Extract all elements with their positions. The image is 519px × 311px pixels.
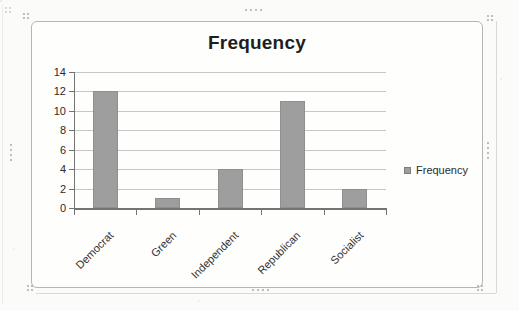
category-label: Socialist [293, 229, 365, 301]
scan-edge-line-left [2, 4, 3, 304]
x-axis-tick [261, 208, 262, 215]
gridline [74, 130, 386, 131]
y-axis-label: 12 [32, 84, 66, 98]
legend-swatch-icon [404, 167, 411, 174]
bar-democrat[interactable] [93, 91, 118, 208]
chart-object[interactable]: Frequency 02468101214DemocratGreenIndepe… [31, 21, 483, 288]
legend-label: Frequency [416, 164, 468, 176]
scan-noise-speckles [0, 0, 2, 2]
bar-green[interactable] [155, 198, 180, 208]
gridline [74, 91, 386, 92]
x-axis-tick [74, 208, 75, 215]
selection-handle-bottom-center[interactable] [252, 289, 269, 291]
y-axis-label: 2 [32, 182, 66, 196]
gridline [74, 111, 386, 112]
selection-handle-bottom-right[interactable] [477, 285, 483, 291]
y-axis-label: 8 [32, 123, 66, 137]
x-axis-tick [386, 208, 387, 215]
selection-handle-bottom-left[interactable] [27, 285, 33, 291]
x-axis-line [74, 208, 386, 210]
y-axis-label: 6 [32, 143, 66, 157]
bar-independent[interactable] [218, 169, 243, 208]
scan-edge-line-bottom [36, 293, 496, 294]
selection-handle-left-middle[interactable] [10, 144, 12, 161]
y-axis-label: 4 [32, 162, 66, 176]
x-axis-tick [136, 208, 137, 215]
category-label: Independent [168, 229, 240, 301]
y-axis-label: 0 [32, 201, 66, 215]
selection-handle-right-middle[interactable] [487, 142, 489, 159]
category-label: Green [106, 229, 178, 301]
selection-handle-top-right[interactable] [487, 15, 493, 21]
x-axis-tick [199, 208, 200, 215]
gridline [74, 150, 386, 151]
bar-republican[interactable] [280, 101, 305, 208]
y-axis-label: 14 [32, 65, 66, 79]
scan-edge-line-right [496, 21, 497, 293]
plot-area[interactable]: 02468101214DemocratGreenIndependentRepub… [32, 22, 482, 287]
category-label: Democrat [44, 229, 116, 301]
gridline [74, 72, 386, 73]
x-axis-tick [324, 208, 325, 215]
selection-handle-top-left[interactable] [23, 13, 29, 19]
legend[interactable]: Frequency [404, 164, 468, 176]
selection-handle-top-center[interactable] [245, 9, 262, 11]
bar-socialist[interactable] [342, 189, 367, 208]
y-axis-line [74, 72, 75, 213]
y-axis-label: 10 [32, 104, 66, 118]
selection-handle-outer-top-left[interactable] [5, 7, 11, 13]
